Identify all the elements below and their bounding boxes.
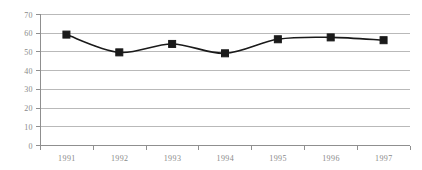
data-point-1991[interactable] xyxy=(63,31,70,38)
data-point-1994[interactable] xyxy=(222,50,229,57)
data-point-1993[interactable] xyxy=(169,40,176,47)
y-tickmarks xyxy=(36,15,40,146)
x-axis-label-1992: 1992 xyxy=(111,154,129,163)
x-axis-label-1997: 1997 xyxy=(375,154,393,163)
chart-container: 70 60 50 40 30 20 10 0 1991 1992 1993 19… xyxy=(0,0,422,170)
data-point-1992[interactable] xyxy=(116,49,123,56)
line-chart: 70 60 50 40 30 20 10 0 1991 1992 1993 19… xyxy=(0,0,422,170)
y-axis-labels: 70 60 50 40 30 20 10 0 xyxy=(24,11,33,151)
y-axis-label-40: 40 xyxy=(24,67,33,76)
y-axis-label-60: 60 xyxy=(24,29,33,38)
y-axis-label-20: 20 xyxy=(24,104,33,113)
x-tickmarks xyxy=(41,146,411,151)
y-axis-label-30: 30 xyxy=(24,85,33,94)
x-axis-label-1995: 1995 xyxy=(269,154,287,163)
y-axis-label-50: 50 xyxy=(24,48,33,57)
y-axis-label-70: 70 xyxy=(24,11,33,20)
data-point-1997[interactable] xyxy=(380,37,387,44)
data-point-1995[interactable] xyxy=(274,36,281,43)
gridlines-horizontal xyxy=(40,15,410,127)
x-axis-label-1991: 1991 xyxy=(58,154,76,163)
x-axis-label-1994: 1994 xyxy=(216,154,234,163)
y-axis-label-10: 10 xyxy=(24,123,33,132)
x-axis-label-1993: 1993 xyxy=(164,154,182,163)
data-point-1996[interactable] xyxy=(327,34,334,41)
x-axis-labels: 1991 1992 1993 1994 1995 1996 1997 xyxy=(58,154,393,163)
data-series-1 xyxy=(63,31,387,57)
x-axis-label-1996: 1996 xyxy=(322,154,340,163)
y-axis-label-0: 0 xyxy=(29,142,33,151)
